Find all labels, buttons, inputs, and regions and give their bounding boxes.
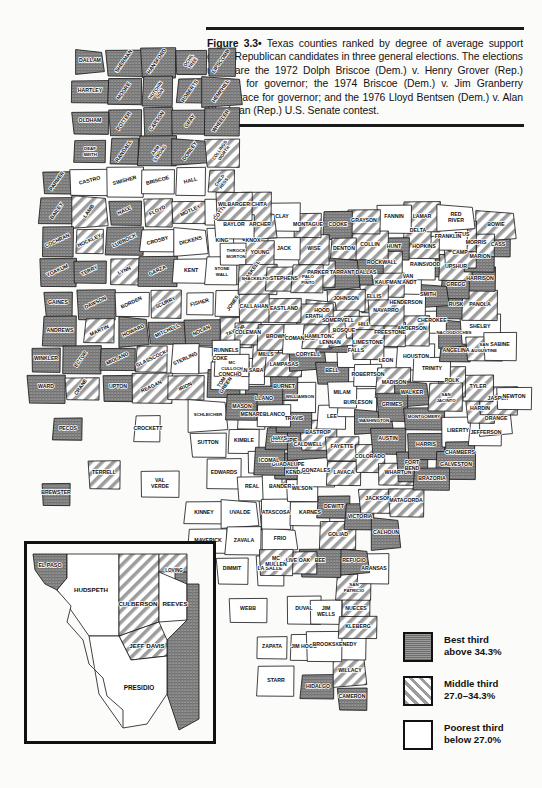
county-label-hunt: HUNT	[387, 243, 402, 249]
county-label-hays: HAYS	[273, 435, 287, 441]
county-label-rockwall: ROCKWALL	[367, 259, 398, 265]
county-label-bastrop: BASTROP	[305, 429, 331, 435]
county-gaines	[44, 292, 73, 318]
county-label-gaines: GAINES	[48, 299, 68, 305]
county-label-hamilton: HAMILTON	[305, 333, 332, 339]
county-label-cameron: CAMERON	[339, 693, 366, 699]
county-label-willacy: WILLACY	[338, 667, 362, 673]
county-label-chambers: CHAMBERS	[445, 449, 476, 455]
county-label-stone-wall: STONEWALL	[214, 266, 229, 276]
county-label-tyler: TYLER	[469, 383, 486, 389]
county-label-walker: WALKER	[401, 389, 424, 395]
county-label-bell: BELL	[325, 367, 339, 373]
county-label-kleberg: KLEBERG	[345, 623, 370, 629]
county-label-lee: LEE	[327, 413, 338, 419]
inset-label-culberson: CULBERSON	[118, 600, 158, 607]
county-label-comal: COMAL	[260, 457, 280, 463]
county-label-rusk: RUSK	[449, 301, 464, 307]
county-label-calhoun: CALHOUN	[373, 529, 399, 535]
county-ward	[27, 375, 65, 403]
county-label-harris: HARRIS	[416, 441, 436, 447]
county-label-callahan: CALLAHAN	[240, 303, 269, 309]
county-label-caldwell: CALDWELL	[293, 441, 323, 447]
legend-poorest-line1: Poorest third	[444, 722, 504, 734]
county-label-denton: DENTON	[333, 245, 355, 251]
county-label-mills: MILLS	[258, 351, 274, 357]
inset-label-hudspeth: HUDSPETH	[74, 586, 109, 593]
county-label-archer: ARCHER	[249, 221, 271, 227]
county-label-dewitt: DEWITT	[324, 503, 345, 509]
county-hale	[109, 201, 142, 225]
county-label-karnes: KARNES	[299, 509, 321, 515]
county-label-brazoria: BRAZORIA	[418, 475, 446, 481]
county-label-cooke: COOKE	[328, 221, 348, 227]
legend-middle-line2: 27.0–34.3%	[444, 690, 498, 702]
county-label-hidalgo: HIDALGO	[306, 683, 330, 689]
county-label-gregg: GREGG	[446, 281, 465, 287]
county-label-jefferson: JEFFERSON	[470, 429, 501, 435]
inset-svg: EL PASO HUDSPETH CULBERSON LOVING REEVES…	[27, 544, 213, 741]
county-label-orange: ORANGE	[485, 415, 508, 421]
county-label-tarrant: TARRANT	[330, 269, 356, 275]
county-label-cherokee: CHEROKEE	[417, 317, 447, 323]
inset-label-presidio: PRESIDIO	[124, 684, 155, 691]
county-label-kaufman: KAUFMAN	[375, 279, 401, 285]
county-label-schleicher: SCHLEICHER	[194, 412, 223, 417]
legend-best-line1: Best third	[444, 634, 502, 646]
county-austin	[371, 428, 406, 454]
county-label-nueces: NUECES	[345, 605, 367, 611]
county-label-aransas: ARANSAS	[361, 565, 387, 571]
county-label-jackson: JACKSON	[365, 495, 391, 501]
county-label-fort-bend: FORTBEND	[405, 459, 420, 470]
county-label-edwards: EDWARDS	[211, 469, 238, 475]
county-label-sabine: SABINE	[490, 341, 510, 347]
inset-label-el-paso: EL PASO	[38, 562, 61, 568]
county-label-throck-morton: THROCKMORTON	[226, 248, 246, 258]
county-label-real: REAL	[245, 483, 260, 489]
county-label-blanco: BLANCO	[263, 411, 285, 417]
county-label-pecos: PECOS	[59, 425, 78, 431]
county-label-menard: MENARD	[241, 411, 264, 417]
county-label-baylor: BAYLOR	[223, 221, 245, 227]
county-label-somervell: SOMERVELL	[322, 317, 355, 323]
county-label-rains: RAINS	[410, 261, 427, 267]
county-label-jack: JACK	[277, 245, 291, 251]
county-label-llano: LLANO	[255, 395, 273, 401]
county-label-knox: KNOX	[246, 237, 262, 243]
county-label-coke: COKE	[213, 355, 229, 361]
county-label-terrell: TERRELL	[92, 469, 117, 475]
county-label-deaf-smith: DEAFSMITH	[83, 146, 97, 156]
county-label-hill: HILL	[358, 321, 370, 327]
county-label-wilson: WILSON	[292, 485, 313, 491]
county-label-smith: SMITH	[420, 291, 436, 297]
county-label-marion: MARION	[469, 253, 490, 259]
map-legend: Best third above 34.3% Middle third 27.0…	[403, 632, 535, 764]
county-label-kenedy: KENEDY	[335, 641, 357, 647]
county-label-runnels: RUNNELS	[213, 347, 239, 353]
county-label-ellis: ELLIS	[367, 293, 382, 299]
county-label-houston: HOUSTON	[403, 353, 429, 359]
county-label-camp: CAMP	[452, 249, 468, 255]
county-label-coryell: CORYELL	[296, 351, 321, 357]
county-label-leon: LEON	[379, 357, 394, 363]
county-label-sutton: SUTTON	[197, 439, 218, 445]
county-fannin	[377, 205, 412, 233]
inset-label-loving: LOVING	[165, 568, 183, 573]
county-label-oldham: OLDHAM	[79, 117, 102, 123]
legend-row-best: Best third above 34.3%	[403, 632, 535, 662]
county-label-trinity: TRINITY	[422, 365, 443, 371]
county-label-lamar: LAMAR	[413, 213, 432, 219]
county-label-travis: TRAVIS	[285, 415, 304, 421]
county-label-eastland: EASTLAND	[270, 305, 298, 311]
county-label-starr: STARR	[267, 677, 285, 683]
county-label-fayette: FAYETTE	[331, 443, 354, 449]
county-label-washington: WASHINGTON	[359, 418, 389, 423]
county-label-burleson: BURLESON	[343, 399, 372, 405]
county-label-erath: ERATH	[305, 313, 323, 319]
legend-swatch-middle-third	[403, 676, 433, 706]
county-label-victoria: VICTORIA	[348, 513, 373, 519]
legend-text-best-third: Best third above 34.3%	[444, 632, 502, 657]
county-label-montague: MONTAGUE	[293, 221, 323, 227]
county-sutton	[190, 433, 226, 457]
county-label-clay: CLAY	[275, 213, 289, 219]
